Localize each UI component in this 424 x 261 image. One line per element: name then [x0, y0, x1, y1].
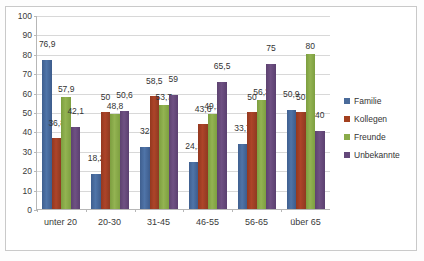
- bar-group-bars: 33,75056,375: [238, 16, 276, 209]
- bar-fill: [150, 96, 160, 209]
- bar-value-label: 58,5: [146, 77, 163, 86]
- y-axis-tick-label: 100: [6, 12, 32, 21]
- bar-fill: [42, 60, 52, 209]
- legend-label: Unbekannte: [354, 150, 400, 160]
- x-axis-tick-label: unter 20: [36, 213, 85, 231]
- bar-fill: [140, 147, 150, 209]
- y-axis-tick-label: 20: [6, 167, 32, 176]
- y-axis-tick-label: 60: [6, 89, 32, 98]
- bar-value-label: 65,5: [214, 62, 231, 71]
- bar-value-label: 59: [169, 75, 178, 84]
- bar-fill: [208, 114, 218, 209]
- legend-item[interactable]: Kollegen: [344, 114, 418, 124]
- bar-fill: [238, 144, 248, 209]
- bar-fill: [110, 114, 120, 209]
- legend-swatch-icon: [344, 152, 350, 158]
- y-axis-tick-label: 50: [6, 109, 32, 118]
- x-axis-tick-label: 20-30: [85, 213, 134, 231]
- bar-fill: [169, 95, 179, 209]
- y-axis-tick-label: 30: [6, 147, 32, 156]
- bar-fill: [217, 82, 227, 209]
- bar-fill: [296, 112, 306, 209]
- legend-label: Kollegen: [354, 114, 387, 124]
- y-axis-tick-label: 0: [6, 206, 32, 215]
- bar-fill: [71, 127, 81, 209]
- bar-group: 18,25048,850,6: [86, 16, 135, 209]
- x-axis-tick-label: über 65: [281, 213, 330, 231]
- bar-fill: [266, 64, 276, 210]
- bar-fill: [306, 54, 316, 209]
- y-axis-tick-label: 10: [6, 186, 32, 195]
- bar-group-bars: 18,25048,850,6: [91, 16, 129, 209]
- legend-label: Familie: [354, 96, 381, 106]
- y-axis-tick-label: 70: [6, 70, 32, 79]
- bar-value-label: 80: [306, 42, 315, 51]
- bar-fill: [189, 162, 199, 209]
- bar-group: 50,9508040: [281, 16, 330, 209]
- bar-fill: [120, 111, 130, 209]
- bar-fill: [247, 112, 257, 209]
- y-axis-tick-label: 40: [6, 128, 32, 137]
- bar-value-label: 32: [140, 127, 149, 136]
- plot-area: 76,936,857,942,118,25048,850,63258,553,7…: [36, 16, 330, 210]
- bar-fill: [315, 131, 325, 209]
- legend-swatch-icon: [344, 134, 350, 140]
- bar-group-bars: 76,936,857,942,1: [42, 16, 80, 209]
- bar-fill: [91, 174, 101, 209]
- bar-group-bars: 3258,553,759: [140, 16, 178, 209]
- x-axis: unter 2020-3031-4546-5556-65über 65: [36, 213, 330, 231]
- legend-swatch-icon: [344, 116, 350, 122]
- x-axis-tick-label: 56-65: [232, 213, 281, 231]
- bar-value-label: 42,1: [67, 107, 84, 116]
- y-axis-tick-label: 90: [6, 31, 32, 40]
- bar-groups: 76,936,857,942,118,25048,850,63258,553,7…: [37, 16, 330, 209]
- bar-group-bars: 50,9508040: [287, 16, 325, 209]
- x-axis-tick-label: 31-45: [134, 213, 183, 231]
- legend-swatch-icon: [344, 98, 350, 104]
- chart-figure: 1009080706050403020100 76,936,857,942,11…: [0, 0, 424, 261]
- bar-value-label: 57,9: [58, 85, 75, 94]
- bar-group-bars: 24,143,649,165,5: [189, 16, 227, 209]
- bar-fill: [257, 100, 267, 209]
- bar-group: 24,143,649,165,5: [183, 16, 232, 209]
- bar-value-label: 76,9: [39, 40, 56, 49]
- legend-item[interactable]: Freunde: [344, 132, 418, 142]
- y-axis-tick-label: 80: [6, 50, 32, 59]
- legend-item[interactable]: Unbekannte: [344, 150, 418, 160]
- bar-fill: [159, 105, 169, 209]
- bar-fill: [287, 110, 297, 209]
- y-axis: 1009080706050403020100: [4, 16, 32, 210]
- legend-item[interactable]: Familie: [344, 96, 418, 106]
- bar-value-label: 50: [296, 93, 305, 102]
- bar-fill: [52, 138, 62, 209]
- x-axis-tick-label: 46-55: [183, 213, 232, 231]
- chart-legend: FamilieKollegenFreundeUnbekannte: [344, 96, 418, 168]
- bar-value-label: 40: [315, 111, 324, 120]
- bar-group: 33,75056,375: [232, 16, 281, 209]
- bar-group: 76,936,857,942,1: [37, 16, 86, 209]
- bar-value-label: 50,6: [116, 91, 133, 100]
- bar-fill: [198, 124, 208, 209]
- legend-label: Freunde: [354, 132, 386, 142]
- bar-value-label: 75: [266, 44, 275, 53]
- bar-group: 3258,553,759: [135, 16, 184, 209]
- bar-fill: [101, 112, 111, 209]
